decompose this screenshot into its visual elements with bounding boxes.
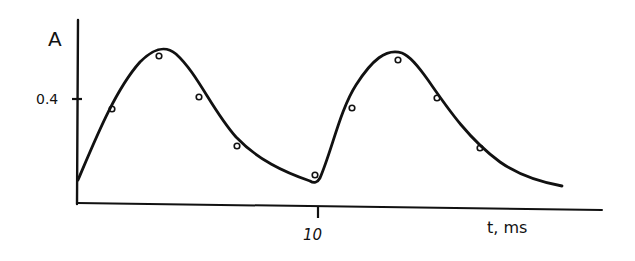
y-tick-label: 0.4 xyxy=(36,91,58,107)
x-tick-label: 10 xyxy=(303,226,322,244)
amplitude-time-chart: A 0.4 10 t, ms xyxy=(0,0,635,261)
y-axis xyxy=(77,20,78,204)
data-point xyxy=(196,94,202,100)
data-point xyxy=(312,172,318,178)
measured-points xyxy=(109,53,483,178)
y-axis-label: A xyxy=(48,27,62,51)
data-point xyxy=(395,57,401,63)
data-point xyxy=(156,53,162,59)
x-axis-label: t, ms xyxy=(487,218,527,237)
data-point xyxy=(349,105,355,111)
fitted-curve xyxy=(78,49,562,186)
x-axis xyxy=(77,203,602,210)
data-point xyxy=(234,143,240,149)
